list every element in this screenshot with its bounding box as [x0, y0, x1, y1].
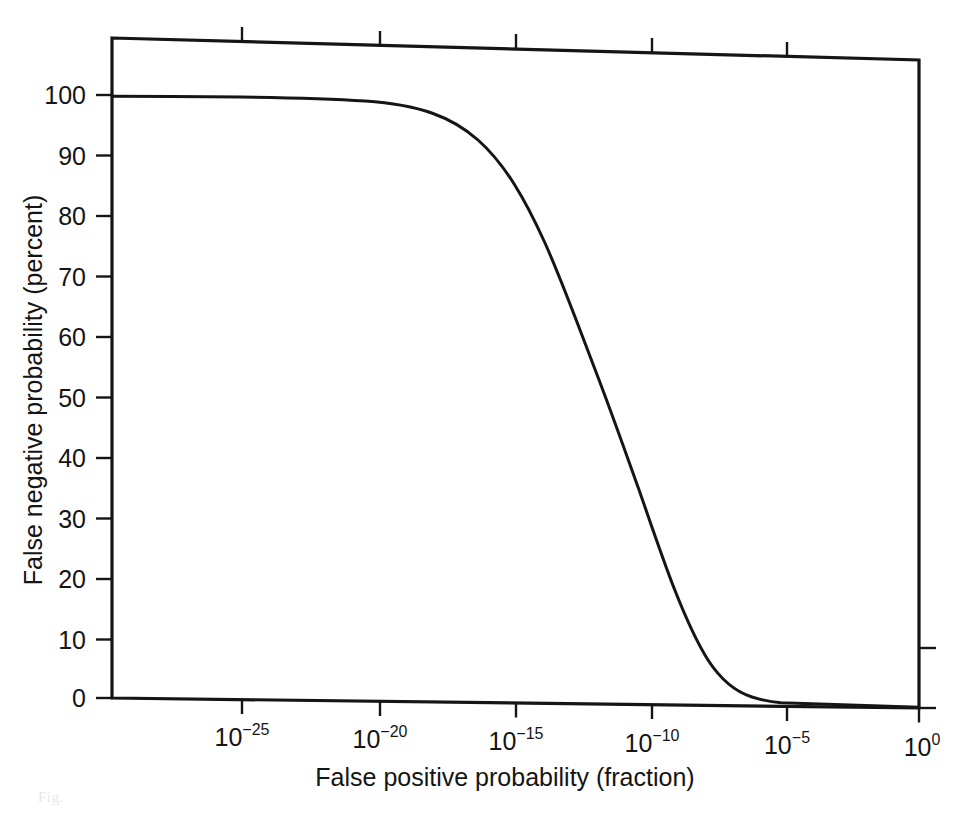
- roc-tradeoff-curve: [113, 96, 919, 707]
- x-tick-label-2: 10−15: [489, 725, 544, 755]
- data-series-curve: [113, 96, 919, 707]
- x-tick-exp-4: −5: [792, 729, 810, 746]
- x-tick-exp-1: −20: [380, 723, 407, 740]
- x-tick-base-1: 10: [353, 725, 381, 753]
- x-tick-base-4: 10: [764, 731, 792, 759]
- y-tick-label-2: 80: [58, 202, 86, 230]
- figure-container: 10−25 10−20 10−15 10−10 10−5 100 100 90 …: [0, 0, 963, 814]
- x-tick-base-5: 10: [904, 733, 932, 761]
- x-tick-base-0: 10: [215, 723, 243, 751]
- x-tick-label-4: 10−5: [764, 729, 810, 759]
- x-tick-labels: 10−25 10−20 10−15 10−10 10−5 100: [215, 721, 941, 761]
- y-tick-label-5: 50: [58, 384, 86, 412]
- x-tick-exp-2: −15: [516, 725, 543, 742]
- x-tick-label-5: 100: [904, 731, 941, 761]
- y-tick-label-10: 0: [72, 684, 86, 712]
- x-tick-exp-0: −25: [242, 721, 269, 738]
- y-tick-label-9: 10: [58, 626, 86, 654]
- caption-fragment: Fig.: [38, 789, 64, 806]
- y-tick-label-4: 60: [58, 323, 86, 351]
- y-tick-label-7: 30: [58, 505, 86, 533]
- plot-frame: [112, 38, 919, 708]
- x-tick-exp-5: 0: [931, 731, 940, 748]
- y-axis-ticks-right: [919, 648, 936, 708]
- x-tick-base-3: 10: [625, 729, 653, 757]
- x-axis-title: False positive probability (fraction): [315, 763, 694, 791]
- y-tick-label-3: 70: [58, 263, 86, 291]
- y-tick-label-1: 90: [58, 142, 86, 170]
- y-tick-label-0: 100: [44, 81, 86, 109]
- axes-spines: [112, 38, 919, 708]
- x-tick-label-1: 10−20: [353, 723, 408, 753]
- y-tick-label-8: 20: [58, 565, 86, 593]
- chart-canvas: 10−25 10−20 10−15 10−10 10−5 100 100 90 …: [0, 0, 963, 814]
- y-tick-label-6: 40: [58, 444, 86, 472]
- y-axis-title: False negative probability (percent): [19, 195, 47, 585]
- y-tick-labels: 100 90 80 70 60 50 40 30 20 10 0: [44, 81, 86, 712]
- x-axis-ticks-top: [242, 27, 787, 56]
- x-tick-label-3: 10−10: [625, 727, 680, 757]
- x-tick-base-2: 10: [489, 727, 517, 755]
- x-tick-exp-3: −10: [652, 727, 679, 744]
- x-tick-label-0: 10−25: [215, 721, 270, 751]
